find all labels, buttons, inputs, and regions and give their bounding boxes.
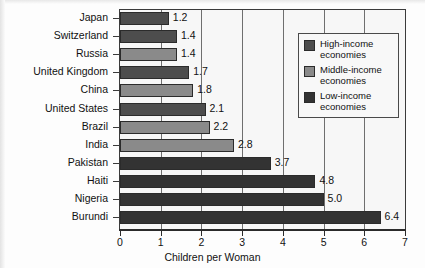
- x-tick-label: 4: [273, 236, 293, 249]
- bar: [120, 103, 206, 116]
- bar-value-label: 1.2: [173, 11, 188, 24]
- legend: High-incomeeconomiesMiddle-incomeeconomi…: [298, 33, 399, 118]
- bar-value-label: 2.2: [214, 120, 229, 133]
- legend-swatch: [304, 66, 315, 77]
- legend-item: High-incomeeconomies: [304, 39, 393, 60]
- x-axis-title: Children per Woman: [0, 251, 425, 263]
- bar-row: 5.0: [120, 193, 407, 206]
- x-tick-label: 6: [354, 236, 374, 249]
- category-label: China: [0, 83, 108, 96]
- bar-value-label: 1.8: [197, 83, 212, 96]
- bar-row: 6.4: [120, 211, 407, 224]
- bar-value-label: 4.8: [319, 174, 334, 187]
- bar: [120, 193, 324, 206]
- bar-row: 4.8: [120, 175, 407, 188]
- legend-label: Low-incomeeconomies: [320, 91, 371, 112]
- bar: [120, 175, 315, 188]
- category-tick: [113, 217, 119, 218]
- x-tick-label: 7: [395, 236, 415, 249]
- category-label: Pakistan: [0, 156, 108, 169]
- bar-value-label: 6.4: [385, 210, 400, 223]
- category-tick: [113, 145, 119, 146]
- x-tick-label: 3: [232, 236, 252, 249]
- category-tick: [113, 54, 119, 55]
- legend-item: Low-incomeeconomies: [304, 91, 393, 112]
- category-tick: [113, 18, 119, 19]
- bar-row: 2.2: [120, 121, 407, 134]
- bar: [120, 84, 193, 97]
- category-tick: [113, 36, 119, 37]
- bar: [120, 48, 177, 61]
- category-label: Brazil: [0, 120, 108, 133]
- x-tick-label: 2: [191, 236, 211, 249]
- bar-value-label: 2.8: [238, 138, 253, 151]
- x-axis-line: [119, 229, 406, 231]
- bar-chart: JapanSwitzerlandRussiaUnited KingdomChin…: [0, 0, 425, 268]
- category-label: United States: [0, 102, 108, 115]
- category-tick: [113, 109, 119, 110]
- category-label: Switzerland: [0, 29, 108, 42]
- bar: [120, 139, 234, 152]
- legend-item: Middle-incomeeconomies: [304, 65, 393, 86]
- bar-value-label: 1.4: [181, 29, 196, 42]
- bar: [120, 66, 189, 79]
- bar: [120, 121, 210, 134]
- bar-row: 2.8: [120, 139, 407, 152]
- bar-value-label: 1.7: [193, 65, 208, 78]
- category-label: Burundi: [0, 210, 108, 223]
- legend-label: Middle-incomeeconomies: [320, 65, 382, 86]
- bar-value-label: 3.7: [275, 156, 290, 169]
- category-tick: [113, 181, 119, 182]
- category-tick: [113, 90, 119, 91]
- x-tick-label: 0: [110, 236, 130, 249]
- bar-row: 3.7: [120, 157, 407, 170]
- bar-value-label: 1.4: [181, 47, 196, 60]
- x-tick-label: 1: [151, 236, 171, 249]
- bar: [120, 157, 271, 170]
- scan-artifact-top: [0, 0, 425, 4]
- category-label: United Kingdom: [0, 65, 108, 78]
- x-tick-label: 5: [314, 236, 334, 249]
- category-label: India: [0, 138, 108, 151]
- bar-value-label: 2.1: [210, 102, 225, 115]
- category-label: Nigeria: [0, 192, 108, 205]
- category-label: Japan: [0, 11, 108, 24]
- bar: [120, 30, 177, 43]
- category-tick: [113, 127, 119, 128]
- legend-swatch: [304, 92, 315, 103]
- category-label: Haiti: [0, 174, 108, 187]
- bar-row: 1.2: [120, 12, 407, 25]
- category-label: Russia: [0, 47, 108, 60]
- category-tick: [113, 72, 119, 73]
- legend-swatch: [304, 40, 315, 51]
- category-tick: [113, 199, 119, 200]
- category-tick: [113, 163, 119, 164]
- bar: [120, 211, 381, 224]
- bar: [120, 12, 169, 25]
- bar-value-label: 5.0: [328, 192, 343, 205]
- legend-label: High-incomeeconomies: [320, 39, 373, 60]
